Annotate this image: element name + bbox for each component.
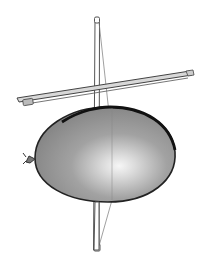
balloon-knot	[23, 153, 35, 164]
balloon	[23, 107, 175, 202]
horizontal-bow	[17, 70, 194, 106]
vertical-bow-front	[94, 202, 99, 250]
balloon-and-bows-illustration	[0, 0, 210, 264]
